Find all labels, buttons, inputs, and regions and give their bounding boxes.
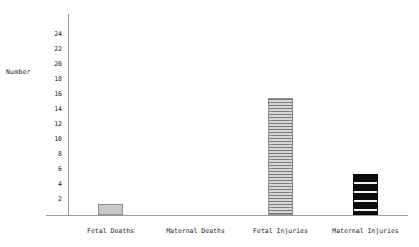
plot-area [68, 14, 408, 215]
y-axis-tick-2: 2 [40, 196, 62, 203]
y-axis-tick-24: 24 [40, 31, 62, 38]
x-axis-tick-labels: Fetal DeathsMaternal DeathsFetal Injurie… [68, 227, 408, 241]
bar-fetal-deaths [98, 204, 123, 215]
y-axis-tick-4: 4 [40, 181, 62, 188]
y-axis-tick-6: 6 [40, 166, 62, 173]
y-axis-tick-14: 14 [40, 106, 62, 113]
bar-fetal-injuries [268, 98, 293, 215]
x-axis-line [46, 215, 408, 216]
y-axis-tick-labels: 24222018161412108642 [40, 0, 62, 247]
y-axis-tick-22: 22 [40, 46, 62, 53]
y-axis-tick-20: 20 [40, 61, 62, 68]
y-axis-tick-12: 12 [40, 121, 62, 128]
y-axis-tick-16: 16 [40, 91, 62, 98]
y-axis-tick-18: 18 [40, 76, 62, 83]
y-axis-tick-8: 8 [40, 151, 62, 158]
x-axis-tick-maternal-injuries: Maternal Injuries [316, 227, 416, 235]
y-axis-tick-10: 10 [40, 136, 62, 143]
bar-chart: Number 24222018161412108642 Fetal Deaths… [0, 0, 419, 247]
bar-maternal-injuries [353, 174, 378, 215]
